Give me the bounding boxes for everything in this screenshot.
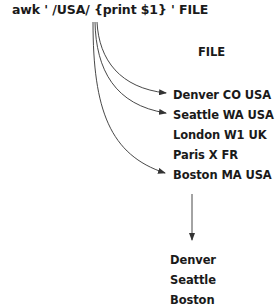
- output-denver: Denver: [170, 253, 216, 267]
- output-seattle: Seattle: [170, 273, 216, 287]
- match-arrow-denver: [97, 22, 166, 93]
- match-arrow-seattle: [95, 22, 166, 113]
- pattern-match-arrows: [0, 0, 278, 308]
- output-boston: Boston: [170, 293, 215, 307]
- match-arrow-boston: [93, 22, 165, 173]
